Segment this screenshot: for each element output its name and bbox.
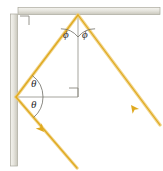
ray-group (16, 15, 160, 168)
theta-upper-label: θ (31, 78, 36, 89)
outgoing-ray-arrow-icon (128, 103, 139, 114)
corner-right-angle-icon (20, 16, 29, 25)
phi-left-label: ϕ (63, 29, 69, 40)
phi-right-label: ϕ (82, 29, 88, 40)
top-mirror (18, 8, 160, 15)
theta-lower-label: θ (31, 99, 36, 110)
angle-arc-group (32, 29, 95, 118)
outgoing-ray (78, 15, 160, 125)
diagram-canvas (0, 0, 163, 171)
normals-right-angle-icon (69, 88, 78, 97)
optics-ray-diagram: ϕ ϕ θ θ (0, 0, 163, 171)
arrowhead-group (36, 103, 139, 135)
incoming-ray (16, 97, 77, 168)
left-mirror (11, 14, 18, 166)
